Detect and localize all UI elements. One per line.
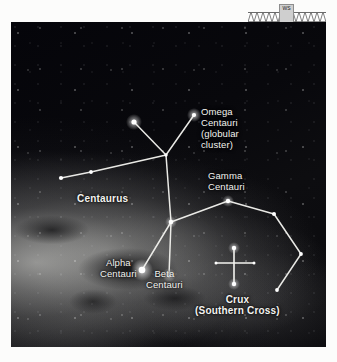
artifact-glyph-label: WS <box>279 4 294 22</box>
figure-page: WS <box>0 0 337 362</box>
label-alpha-centauri: Alpha Centauri <box>100 257 137 279</box>
label-centaurus: Centaurus <box>77 193 128 204</box>
label-omega-centauri: Omega Centauri (globular cluster) <box>201 106 239 150</box>
scan-strip-artifact: WS <box>248 4 326 22</box>
label-crux: Crux (Southern Cross) <box>195 294 280 316</box>
label-gamma-centauri: Gamma Centauri <box>208 170 245 192</box>
label-beta-centauri: Beta Centauri <box>146 268 183 290</box>
star-chart-photograph: Omega Centauri (globular cluster) Gamma … <box>11 22 326 347</box>
